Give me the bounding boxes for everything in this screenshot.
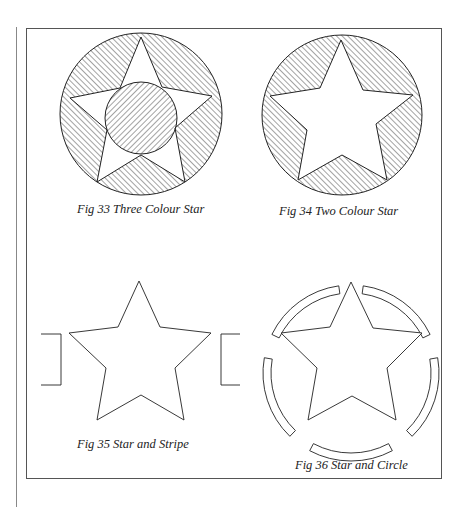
star-icon: [69, 281, 211, 420]
fig33-three-colour-star: [60, 33, 222, 195]
fig35-caption: Fig 35 Star and Stripe: [77, 437, 189, 452]
left-stripe-stub: [41, 334, 61, 385]
fig34-caption: Fig 34 Two Colour Star: [279, 204, 398, 219]
ring-segment: [263, 358, 295, 437]
figures-artwork: [0, 0, 466, 507]
fig34-two-colour-star: [262, 35, 422, 195]
right-stripe-stub: [221, 334, 240, 385]
ring-segment: [407, 358, 439, 437]
fig35-star-and-stripe: [41, 281, 240, 420]
fig33-caption: Fig 33 Three Colour Star: [77, 202, 204, 217]
fig36-caption: Fig 36 Star and Circle: [295, 458, 408, 473]
fig36-star-and-circle: [263, 282, 439, 461]
